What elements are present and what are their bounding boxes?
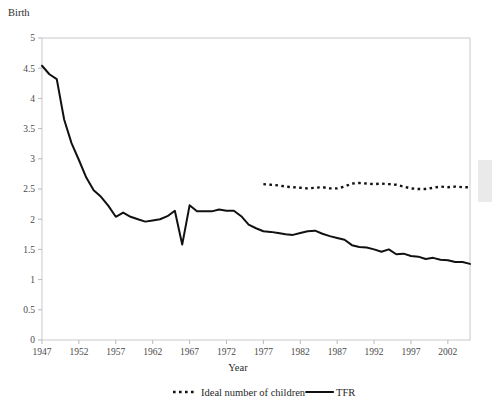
x-tick-label: 1992 xyxy=(365,347,384,357)
x-tick-label: 1947 xyxy=(33,347,52,357)
y-tick-label: 4 xyxy=(30,94,35,104)
x-tick-label: 1997 xyxy=(401,347,420,357)
y-tick-label: 4.5 xyxy=(23,64,35,74)
x-tick-label: 1982 xyxy=(291,347,310,357)
x-tick-label: 1987 xyxy=(328,347,347,357)
y-axis-title: Birth xyxy=(8,7,30,18)
x-tick-label: 1952 xyxy=(69,347,88,357)
x-tick-label: 1977 xyxy=(254,347,273,357)
x-tick-label: 1962 xyxy=(143,347,162,357)
x-tick-label: 1967 xyxy=(180,347,199,357)
y-tick-label: 0 xyxy=(30,335,35,345)
y-tick-label: 1 xyxy=(30,275,35,285)
y-tick-label: 5 xyxy=(30,33,35,43)
x-tick-label: 1972 xyxy=(217,347,236,357)
x-axis-title: Year xyxy=(228,362,248,373)
y-tick-label: 2 xyxy=(30,215,35,225)
tfr-chart-figure: Birth 00.511.522.533.544.55 194719521957… xyxy=(0,0,492,413)
legend-label-ideal-number-of-children: Ideal number of children xyxy=(201,387,306,398)
x-tick-label: 1957 xyxy=(106,347,125,357)
x-tick-label: 2002 xyxy=(438,347,457,357)
legend-label-tfr: TFR xyxy=(336,387,355,398)
y-tick-label: 3 xyxy=(30,154,35,164)
y-tick-label: 1.5 xyxy=(23,245,35,255)
y-tick-label: 0.5 xyxy=(23,305,35,315)
y-tick-label: 3.5 xyxy=(23,124,35,134)
scan-edge-artifact xyxy=(478,160,492,202)
y-tick-label: 2.5 xyxy=(23,184,35,194)
